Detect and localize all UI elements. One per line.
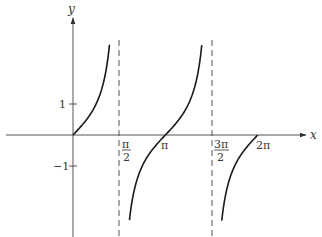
x-tick-label-three-pi-half-den: 2 <box>217 151 224 164</box>
y-axis-label: y <box>67 2 75 16</box>
x-tick-label-three-pi-half-num: 3π <box>214 138 228 151</box>
x-tick-label-pi-half-den: 2 <box>123 151 130 164</box>
x-tick-label-pi: π <box>161 139 168 152</box>
tan-branch-2 <box>129 45 201 220</box>
tan-branch-1 <box>73 45 109 135</box>
x-axis-label: x <box>310 128 317 142</box>
x-tick-label-pi-half-num: π <box>122 138 129 151</box>
x-tick-label-two-pi: 2π <box>256 139 270 152</box>
tangent-graph: y x 1 −1 π 2 π 3π 2 2π <box>0 0 322 237</box>
y-tick-label-1: 1 <box>59 98 66 111</box>
y-tick-label-neg1: −1 <box>53 160 69 173</box>
